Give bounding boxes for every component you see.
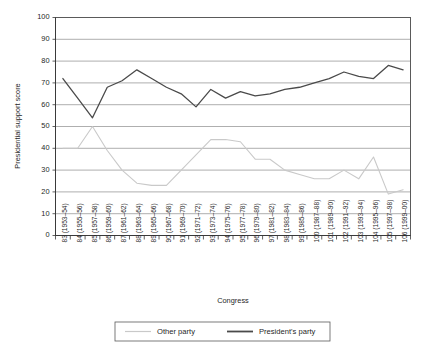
- y-tick-label: 40: [41, 143, 49, 152]
- x-tick-label: 86 (1959–60): [105, 203, 113, 242]
- y-tick-label: 100: [37, 12, 49, 21]
- series-line-other-party: [63, 127, 403, 195]
- y-tick-label: 0: [45, 230, 49, 239]
- x-tick-label: 100 (1987–88): [313, 200, 321, 243]
- legend: Other partyPresident's party: [115, 322, 330, 341]
- x-tick-label: 95 (1977–78): [239, 203, 247, 242]
- x-tick-label: 101 (1989–90): [327, 200, 335, 243]
- y-tick-label: 60: [41, 100, 49, 109]
- x-tick-label: 104 (1995–96): [372, 200, 380, 243]
- x-tick-label: 90 (1967–68): [165, 203, 173, 242]
- y-axis-title: Presidential support score: [13, 83, 22, 168]
- x-tick-label: 105 (1997–98): [386, 200, 394, 243]
- y-tick-label: 20: [41, 187, 49, 196]
- x-tick-label: 106 (1999–00): [401, 200, 409, 243]
- series-line-president-s-party: [63, 65, 403, 117]
- x-tick-label: 88 (1963–64): [135, 203, 143, 242]
- y-tick-label: 70: [41, 78, 49, 87]
- x-axis-labels-group: 83 (1953–54)84 (1955–56)85 (1957–58)86 (…: [61, 200, 409, 243]
- x-tick-label: 98 (1983–84): [283, 203, 291, 242]
- y-axis-ticks-group: 0102030405060708090100: [37, 12, 55, 239]
- y-tick-label: 90: [41, 34, 49, 43]
- x-tick-label: 83 (1953–54): [61, 203, 69, 242]
- legend-label-1: Other party: [157, 327, 195, 336]
- series-group: [63, 65, 403, 194]
- x-tick-label: 91 (1969–70): [179, 203, 187, 242]
- y-tick-label: 80: [41, 56, 49, 65]
- x-tick-label: 96 (1979–80): [253, 203, 261, 242]
- presidential-support-chart: 0102030405060708090100 83 (1953–54)84 (1…: [0, 0, 445, 348]
- x-tick-label: 93 (1973–74): [209, 203, 217, 242]
- y-tick-label: 30: [41, 165, 49, 174]
- x-tick-label: 97 (1981–82): [268, 203, 276, 242]
- y-tick-label: 50: [41, 121, 49, 130]
- x-tick-label: 94 (1975–76): [224, 203, 232, 242]
- x-tick-label: 103 (1993–94): [357, 200, 365, 243]
- x-tick-label: 85 (1957–58): [91, 203, 99, 242]
- x-axis-title: Congress: [217, 296, 249, 305]
- x-tick-label: 87 (1961–62): [120, 203, 128, 242]
- x-tick-label: 92 (1971–72): [194, 203, 202, 242]
- legend-label-2: President's party: [259, 327, 316, 336]
- y-tick-label: 10: [41, 209, 49, 218]
- gridlines-group: [56, 39, 411, 213]
- chart-svg: 0102030405060708090100 83 (1953–54)84 (1…: [0, 0, 445, 348]
- x-tick-label: 102 (1991–92): [342, 200, 350, 243]
- x-tick-label: 99 (1985–86): [298, 203, 306, 242]
- x-tick-label: 89 (1965–66): [150, 203, 158, 242]
- x-tick-label: 84 (1955–56): [76, 203, 84, 242]
